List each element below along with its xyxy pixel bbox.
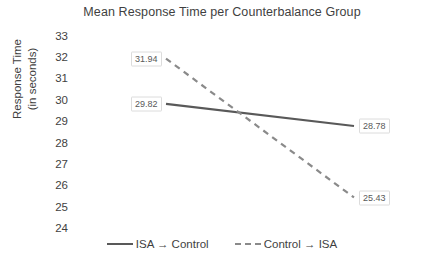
data-label-31-94: 31.94 bbox=[131, 51, 162, 66]
data-label-25-43: 25.43 bbox=[359, 190, 390, 205]
series-line-control-isa bbox=[166, 59, 354, 198]
legend-item-control-isa[interactable]: Control → ISA bbox=[235, 238, 338, 250]
chart-legend: ISA → Control Control → ISA bbox=[0, 238, 444, 250]
legend-label: ISA → Control bbox=[136, 238, 209, 250]
legend-swatch-solid-line-icon bbox=[107, 243, 133, 245]
legend-swatch-dashed-line-icon bbox=[235, 243, 261, 245]
data-label-28-78: 28.78 bbox=[359, 119, 390, 134]
plot-area: 31.94 29.82 28.78 25.43 bbox=[0, 0, 444, 259]
legend-label: Control → ISA bbox=[264, 238, 338, 250]
chart-container: Mean Response Time per Counterbalance Gr… bbox=[0, 0, 444, 259]
data-label-29-82: 29.82 bbox=[131, 96, 162, 111]
legend-item-isa-control[interactable]: ISA → Control bbox=[107, 238, 209, 250]
series-line-isa-control bbox=[166, 104, 354, 126]
